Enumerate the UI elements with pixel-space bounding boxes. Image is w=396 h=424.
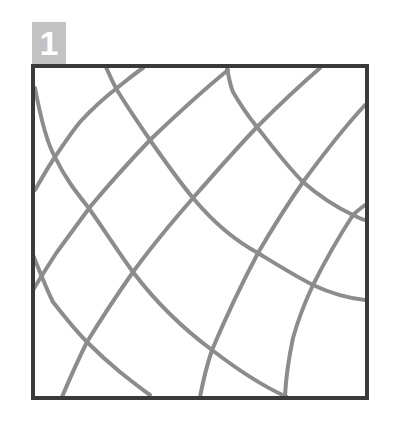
curve-lines [33, 67, 365, 397]
curve-rising-b5 [285, 205, 365, 396]
curve-rising-b2 [33, 70, 228, 290]
curved-grid-diagram [0, 0, 396, 424]
curve-rising-b3 [62, 68, 320, 397]
curve-rising-b1 [35, 68, 143, 190]
curve-rising-b4 [200, 105, 365, 397]
curve-falling-a2 [106, 67, 365, 300]
